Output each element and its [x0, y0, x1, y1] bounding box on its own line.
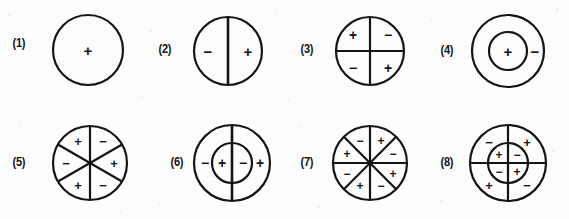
- figure-sign-6-3: −: [239, 155, 247, 171]
- figure-sign-7-5: −: [377, 179, 384, 193]
- figure-sign-7-6: +: [356, 179, 363, 193]
- figure-art-4: +−: [0, 0, 569, 219]
- figure-sign-8-7: −: [495, 165, 502, 179]
- figure-plate: (1)+(2)−+(3)+−−+(4)+−(5)+−+−+−(6)−+−+(7)…: [0, 0, 569, 219]
- figure-sign-3-3: −: [349, 60, 357, 76]
- scan-speckle-9: [158, 204, 160, 206]
- scan-speckle-5: [288, 100, 290, 102]
- scan-speckle-4: [276, 12, 278, 14]
- figure-sign-7-2: +: [377, 134, 384, 148]
- scan-speckle-3: [150, 30, 152, 32]
- figure-sign-2-2: +: [244, 43, 253, 60]
- figure-sign-8-6: −: [513, 148, 520, 162]
- figure-outer-circle-3: [336, 17, 404, 85]
- figure-art-1: +: [0, 0, 569, 219]
- figure-label-5: (5): [13, 155, 26, 169]
- figure-sign-5-1: +: [74, 134, 82, 149]
- figure-cell-6: (6)−+−+: [0, 0, 569, 219]
- figure-sign-7-7: −: [343, 167, 350, 181]
- scan-speckle-1: [8, 14, 10, 16]
- figure-art-2: −+: [0, 0, 569, 219]
- figure-sign-5-4: −: [99, 178, 107, 193]
- figure-sign-8-1: −: [485, 135, 493, 150]
- figure-sign-8-5: +: [495, 148, 502, 162]
- figure-sign-8-8: +: [513, 165, 520, 179]
- figure-sign-8-2: +: [523, 135, 531, 150]
- figure-outer-circle-1: [53, 15, 123, 85]
- figure-inner-circle-4: [489, 32, 527, 70]
- figure-cell-5: (5)+−+−+−: [0, 0, 569, 219]
- figure-cell-4: (4)+−: [0, 0, 569, 219]
- figure-sign-6-1: −: [201, 155, 209, 171]
- scan-speckle-13: [552, 150, 554, 152]
- figure-spoke-5-2: [58, 145, 122, 182]
- figure-label-6: (6): [171, 155, 184, 169]
- figure-outer-circle-5: [53, 126, 127, 200]
- figure-inner-circle-6: [212, 143, 252, 183]
- figure-label-8: (8): [441, 155, 454, 169]
- figure-cell-3: (3)+−−+: [0, 0, 569, 219]
- figure-label-7: (7): [301, 155, 314, 169]
- figure-art-3: +−−+: [0, 0, 569, 219]
- figure-art-8: −++−+−−+: [0, 0, 569, 219]
- figure-outer-circle-8: [470, 125, 546, 201]
- figure-spoke-7-4: [344, 137, 396, 189]
- figure-sign-2-1: −: [204, 43, 213, 60]
- figure-art-6: −+−+: [0, 0, 569, 219]
- figure-sign-5-2: −: [99, 134, 107, 149]
- figure-inner-circle-8: [488, 143, 528, 183]
- figure-sign-4-2: −: [531, 43, 540, 60]
- scan-speckle-10: [300, 126, 302, 128]
- figure-spoke-5-3: [58, 145, 122, 182]
- figure-label-2: (2): [159, 42, 172, 56]
- figure-outer-circle-4: [472, 15, 544, 87]
- figure-sign-6-4: +: [256, 155, 264, 171]
- figure-sign-8-4: −: [523, 178, 531, 193]
- figure-sign-8-3: +: [485, 178, 493, 193]
- figure-cell-7: (7)−+−+−+−+: [0, 0, 569, 219]
- scan-speckle-7: [556, 8, 559, 11]
- figure-sign-7-3: −: [389, 147, 396, 161]
- scan-speckle-6: [430, 20, 432, 22]
- figure-sign-1-1: +: [84, 42, 93, 59]
- figure-outer-circle-7: [333, 126, 407, 200]
- figure-sign-7-1: −: [356, 134, 363, 148]
- figure-sign-5-5: +: [74, 178, 82, 193]
- figure-sign-6-2: +: [218, 155, 226, 171]
- figure-sign-7-4: +: [389, 167, 396, 181]
- scan-speckle-12: [440, 200, 442, 202]
- figure-cell-1: (1)+: [0, 0, 569, 219]
- scan-speckle-8: [20, 122, 22, 124]
- figure-sign-3-1: +: [349, 27, 357, 43]
- figure-label-1: (1): [13, 36, 26, 50]
- figure-sign-5-3: +: [110, 156, 118, 171]
- figure-sign-4-1: +: [504, 43, 513, 60]
- figure-art-5: +−+−+−: [0, 0, 569, 219]
- figure-sign-5-6: −: [62, 156, 70, 171]
- figure-label-4: (4): [441, 43, 454, 57]
- scan-speckle-11: [318, 206, 320, 208]
- figure-sign-7-8: +: [343, 147, 350, 161]
- figure-sign-3-2: −: [384, 27, 392, 43]
- figure-cell-8: (8)−++−+−−+: [0, 0, 569, 219]
- figure-cell-2: (2)−+: [0, 0, 569, 219]
- figure-label-3: (3): [301, 42, 314, 56]
- figure-sign-3-4: +: [384, 60, 392, 76]
- scan-speckle-14: [120, 210, 122, 212]
- figure-art-7: −+−+−+−+: [0, 0, 569, 219]
- figure-spoke-7-2: [344, 137, 396, 189]
- scan-speckle-2: [141, 96, 143, 98]
- figure-outer-circle-2: [194, 17, 262, 85]
- figure-outer-circle-6: [194, 125, 270, 201]
